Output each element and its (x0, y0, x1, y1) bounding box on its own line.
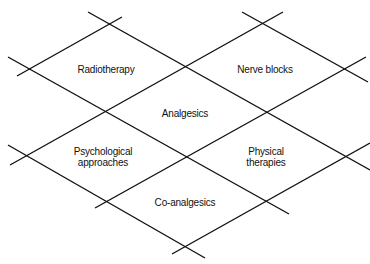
region-label-nerve-blocks: Nerve blocks (237, 64, 292, 75)
region-label-line: Nerve blocks (237, 64, 292, 75)
lattice-line-up-3 (95, 57, 366, 208)
region-label-line: Psychological (74, 146, 133, 157)
region-label-line: Radiotherapy (77, 64, 134, 75)
region-label-analgesics: Analgesics (162, 108, 208, 119)
region-label-radiotherapy: Radiotherapy (77, 64, 134, 75)
region-label-line: therapies (246, 157, 285, 168)
region-label-line: Physical (246, 146, 285, 157)
region-label-co-analgesics: Co-analgesics (155, 197, 216, 208)
region-label-physical-therapies: Physicaltherapies (246, 146, 285, 168)
lattice-line-up-2 (10, 12, 283, 165)
region-label-line: Co-analgesics (155, 197, 216, 208)
region-label-line: Analgesics (162, 108, 208, 119)
diamond-lattice-diagram (0, 0, 370, 264)
region-label-psychological-approaches: Psychologicalapproaches (74, 146, 133, 168)
lattice-line-down-2 (8, 57, 289, 214)
region-label-line: approaches (74, 157, 133, 168)
